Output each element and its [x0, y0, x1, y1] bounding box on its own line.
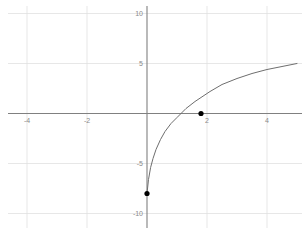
chart-canvas: 105-5-10-4-224	[0, 0, 304, 231]
y-tick-label: 10	[123, 10, 143, 17]
data-point-endpoint[interactable]	[144, 191, 149, 196]
x-tick-label: 2	[197, 117, 217, 124]
curve-log	[147, 64, 297, 194]
x-tick-label: 4	[257, 117, 277, 124]
y-tick-label: -10	[123, 210, 143, 217]
x-tick-label: -4	[17, 117, 37, 124]
y-tick-label: 5	[123, 60, 143, 67]
y-tick-label: -5	[123, 160, 143, 167]
x-tick-label: -2	[77, 117, 97, 124]
chart-plot-area	[0, 0, 304, 231]
data-point-x-intercept[interactable]	[198, 111, 203, 116]
